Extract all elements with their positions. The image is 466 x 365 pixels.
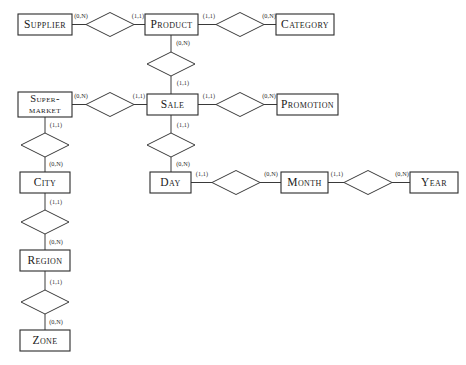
entity-promotion[interactable]: Promotion	[277, 94, 338, 115]
card-city-up: (0,N)	[49, 160, 63, 168]
entity-label-month: Month	[287, 176, 321, 188]
relationship-diamond-sale-promotion[interactable]	[216, 93, 264, 117]
entity-supplier[interactable]: Supplier	[18, 14, 72, 35]
entity-label-supplier: Supplier	[24, 18, 66, 30]
card-supplier: (0,N)	[74, 12, 88, 20]
entity-month[interactable]: Month	[281, 172, 328, 193]
relationship-diamond-region-zone[interactable]	[21, 290, 69, 314]
relationship-diamond-product-category[interactable]	[216, 13, 264, 37]
card-day-right: (1,1)	[196, 170, 208, 178]
card-month-left: (0,N)	[264, 170, 278, 178]
card-city-down: (1,1)	[50, 198, 62, 206]
entity-label-city: City	[34, 176, 57, 188]
relationship-diamond-supermarket-sale[interactable]	[86, 93, 134, 117]
entity-year[interactable]: Year	[410, 172, 458, 193]
card-product-down: (0,N)	[176, 39, 190, 47]
relationship-diamond-product-sale[interactable]	[147, 52, 195, 76]
relationship-layer	[21, 13, 392, 315]
card-year: (0,N)	[395, 170, 409, 178]
card-promotion: (0,N)	[262, 92, 276, 100]
er-diagram-canvas: SupplierProductCategorySuper-marketSaleP…	[0, 0, 466, 365]
card-sale-right: (1,1)	[203, 92, 215, 100]
entity-label-product: Product	[150, 18, 192, 30]
card-zone-up: (0,N)	[49, 318, 63, 326]
card-category: (0,N)	[262, 12, 276, 20]
card-supermarket: (0,N)	[74, 92, 88, 100]
relationship-diamond-city-region[interactable]	[21, 210, 69, 234]
card-supermkt-down: (1,1)	[50, 121, 62, 129]
cardinality-layer: (0,N)(1,1)(1,1)(0,N)(0,N)(1,1)(0,N)(1,1)…	[49, 12, 409, 326]
entity-category[interactable]: Category	[276, 14, 334, 35]
entity-supermarket[interactable]: Super-market	[18, 92, 72, 117]
relationship-diamond-supplier-product[interactable]	[86, 13, 134, 37]
card-sale-down: (1,1)	[177, 121, 189, 129]
entity-label-day: Day	[160, 176, 180, 188]
entity-label-supermarket-line1: Super-	[30, 93, 60, 104]
relationship-diamond-supermarket-city[interactable]	[21, 133, 69, 157]
entity-region[interactable]: Region	[20, 250, 70, 271]
entity-label-category: Category	[281, 18, 329, 30]
entity-label-promotion: Promotion	[281, 98, 334, 110]
entity-product[interactable]: Product	[145, 14, 198, 35]
card-product-left: (1,1)	[132, 12, 144, 20]
entity-label-year: Year	[421, 176, 447, 188]
entity-label-zone: Zone	[32, 334, 57, 346]
card-month-right: (1,1)	[331, 170, 343, 178]
entity-city[interactable]: City	[20, 172, 70, 193]
card-day-up: (0,N)	[176, 160, 190, 168]
entity-label-sale: Sale	[161, 98, 185, 110]
entity-sale[interactable]: Sale	[147, 94, 198, 115]
relationship-diamond-sale-day[interactable]	[147, 133, 195, 157]
relationship-diamond-day-month[interactable]	[212, 171, 260, 195]
entity-label-region: Region	[28, 254, 63, 266]
entity-day[interactable]: Day	[150, 172, 191, 193]
relationship-diamond-month-year[interactable]	[344, 171, 392, 195]
entity-zone[interactable]: Zone	[20, 330, 70, 351]
card-region-down: (1,1)	[50, 278, 62, 286]
card-sale-up: (1,1)	[177, 79, 189, 87]
card-sale-left: (1,1)	[133, 92, 145, 100]
entity-label-supermarket-line2: market	[29, 104, 61, 115]
card-product-right: (1,1)	[203, 12, 215, 20]
card-region-up: (0,N)	[49, 238, 63, 246]
